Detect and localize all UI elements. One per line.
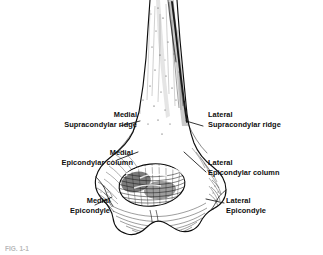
label-line-1: Medial (70, 196, 110, 206)
label-line-1: Lateral (208, 110, 281, 120)
label-line-1: Medial (61, 148, 133, 158)
label-lateral-supracondylar-ridge: Lateral Supracondylar ridge (208, 110, 281, 129)
label-line-1: Lateral (226, 196, 266, 206)
label-lateral-epicondyle: Lateral Epicondyle (226, 196, 266, 215)
label-line-2: Epicondyle (226, 206, 266, 216)
label-line-1: Lateral (208, 158, 280, 168)
anatomical-figure: Medial Supracondylar ridge Lateral Supra… (0, 0, 323, 255)
label-line-2: Supracondylar ridge (64, 120, 137, 130)
label-line-2: Supracondylar ridge (208, 120, 281, 130)
label-line-1: Medial (64, 110, 137, 120)
label-line-2: Epicondyle (70, 206, 110, 216)
label-line-2: Epicondylar column (208, 168, 280, 178)
label-lateral-epicondylar-column: Lateral Epicondylar column (208, 158, 280, 177)
label-medial-epicondylar-column: Medial Epicondylar column (61, 148, 133, 167)
figure-caption: FIG. 1-1 (5, 245, 29, 254)
label-line-2: Epicondylar column (61, 158, 133, 168)
label-medial-supracondylar-ridge: Medial Supracondylar ridge (64, 110, 137, 129)
label-medial-epicondyle: Medial Epicondyle (70, 196, 110, 215)
